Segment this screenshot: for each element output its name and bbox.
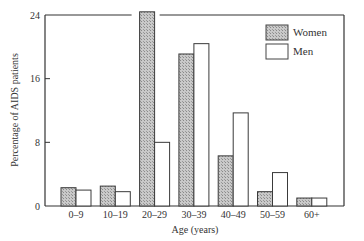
x-axis-tick-labels: 0–910–1920–2930–3940–4950–5960+ (69, 209, 320, 220)
bar-women-5 (218, 156, 233, 206)
bar-women-2 (100, 186, 115, 206)
bar-women-7 (297, 198, 312, 206)
bar-men-3 (155, 142, 170, 206)
bar-women-1 (61, 188, 76, 206)
bar-men-7 (312, 198, 327, 206)
bar-men-4 (194, 44, 209, 206)
bar-women-6 (258, 192, 273, 206)
legend-label-women: Women (293, 26, 327, 38)
bars (61, 12, 327, 206)
legend-swatch-women (266, 25, 288, 40)
bar-chart: 081624 0–910–1920–2930–3940–4950–5960+ A… (0, 0, 364, 241)
legend: Women Men (266, 25, 327, 59)
x-tick-label: 10–19 (103, 209, 128, 220)
y-axis-ticks: 081624 (30, 10, 50, 212)
y-axis-title: Percentage of AIDS patients (9, 53, 20, 167)
y-tick-label: 8 (35, 137, 40, 148)
x-tick-label: 20–29 (142, 209, 167, 220)
bar-men-6 (273, 173, 288, 206)
x-tick-label: 60+ (304, 209, 320, 220)
x-tick-label: 0–9 (69, 209, 84, 220)
bar-women-3 (140, 12, 155, 206)
legend-label-men: Men (293, 45, 314, 57)
bar-men-2 (115, 192, 130, 206)
legend-swatch-men (266, 44, 288, 59)
y-tick-label: 0 (35, 201, 40, 212)
y-tick-label: 16 (30, 73, 40, 84)
x-tick-label: 50–59 (260, 209, 285, 220)
bar-women-4 (179, 54, 194, 206)
x-tick-label: 40–49 (221, 209, 246, 220)
bar-men-1 (76, 190, 91, 206)
x-axis-title: Age (years) (172, 224, 219, 236)
x-tick-label: 30–39 (181, 209, 206, 220)
y-tick-label: 24 (30, 10, 40, 21)
bar-men-5 (233, 113, 248, 206)
